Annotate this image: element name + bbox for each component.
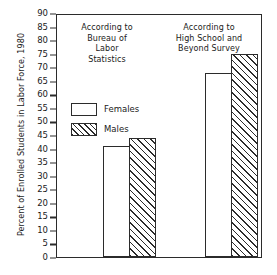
y-tick-label: 20 — [37, 199, 48, 208]
bar-females-group2 — [205, 73, 232, 257]
y-tick-label: 15 — [37, 213, 48, 222]
legend-swatch-males — [71, 123, 97, 136]
y-tick-label: 45 — [37, 131, 48, 140]
y-tick-label: 5 — [43, 240, 48, 249]
bar-males-group1 — [129, 138, 156, 257]
y-tick-label: 40 — [37, 145, 48, 154]
y-tick-label: 25 — [37, 185, 48, 194]
y-tick-label: 70 — [37, 63, 48, 72]
bar-females-group1 — [103, 146, 130, 257]
bar-males-group2 — [231, 54, 258, 257]
y-tick-label: 10 — [37, 226, 48, 235]
y-tick-label: 50 — [37, 118, 48, 127]
legend-item: Females — [71, 103, 139, 116]
y-tick-label: 80 — [37, 36, 48, 45]
plot-area: According to Bureau of Labor Statistics … — [56, 14, 262, 258]
legend-label: Females — [104, 105, 139, 114]
legend-item: Males — [71, 123, 139, 136]
y-axis-ticks: 051015202530354045505560657075808590 — [0, 14, 56, 258]
panel-title-hsb: According to High School and Beyond Surv… — [157, 23, 261, 55]
y-tick-label: 55 — [37, 104, 48, 113]
y-tick-label: 85 — [37, 23, 48, 32]
y-tick-label: 75 — [37, 50, 48, 59]
y-tick-label: 35 — [37, 158, 48, 167]
y-tick-label: 30 — [37, 172, 48, 181]
y-tick-label: 90 — [37, 9, 48, 18]
legend-label: Males — [104, 125, 129, 134]
y-tick-label: 65 — [37, 77, 48, 86]
y-tick-label: 0 — [43, 253, 48, 262]
y-tick-label: 60 — [37, 91, 48, 100]
legend-swatch-females — [71, 103, 97, 116]
bar-chart-figure: Percent of Enrolled Students in Labor Fo… — [0, 0, 277, 275]
panel-title-bls: According to Bureau of Labor Statistics — [61, 23, 153, 65]
